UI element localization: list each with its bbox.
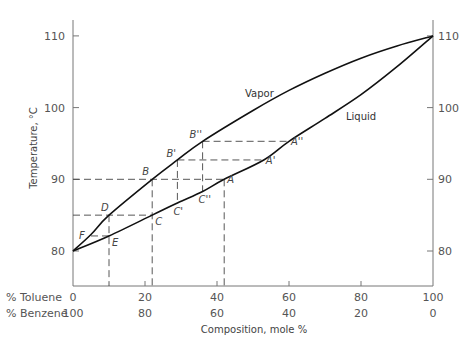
y-tick-label-right: 90 [438,173,452,186]
y-axis-title: Temperature, °C [28,107,39,190]
x-tick-label-benzene: 20 [354,307,368,320]
y-tick-label-left: 90 [51,173,65,186]
x-tick-label-benzene: 60 [210,307,224,320]
axis-frame [73,20,433,286]
point-label: E [112,237,119,248]
x-tick-label-benzene: 0 [430,307,437,320]
x-tick-label-toluene: 60 [282,291,296,304]
point-label: B'' [190,129,202,140]
point-label: B' [166,148,176,159]
point-label: C [155,216,162,227]
point-label: C' [173,206,183,217]
x-tick-label-toluene: 20 [138,291,152,304]
point-label: D [101,202,109,213]
y-tick-label-left: 110 [44,30,65,43]
point-label: C'' [199,194,211,205]
x-tick-label-toluene: 80 [354,291,368,304]
point-label: A'' [290,136,303,147]
y-tick-label-left: 100 [44,102,65,115]
vapor-liquid-equilibrium-chart: 8090100110809010011001002080406060408020… [0,0,476,355]
y-tick-label-left: 80 [51,245,65,258]
axes: 8090100110809010011001002080406060408020… [44,20,459,320]
point-labels: AA'A''BB'B''CC'C''DEF [79,129,303,248]
toluene-row-label: % Toluene [6,291,62,304]
benzene-row-label: % Benzene [6,307,68,320]
liquid-curve [73,36,433,251]
curves [73,36,433,251]
y-tick-label-right: 100 [438,102,459,115]
x-tick-label-toluene: 40 [210,291,224,304]
point-label: B [142,166,149,177]
axis-labels: Temperature, °C Composition, mole % Vapo… [6,88,376,335]
point-label: A' [265,155,276,166]
x-axis-title: Composition, mole % [201,324,307,335]
x-tick-label-benzene: 80 [138,307,152,320]
x-tick-label-benzene: 40 [282,307,296,320]
point-label: A [226,174,234,185]
x-tick-label-toluene: 0 [70,291,77,304]
x-tick-label-toluene: 100 [423,291,444,304]
vapor-curve [73,36,433,251]
point-label: F [79,230,85,241]
liquid-curve-label: Liquid [346,111,376,122]
vapor-curve-label: Vapor [245,88,275,99]
y-tick-label-right: 110 [438,30,459,43]
y-tick-label-right: 80 [438,245,452,258]
